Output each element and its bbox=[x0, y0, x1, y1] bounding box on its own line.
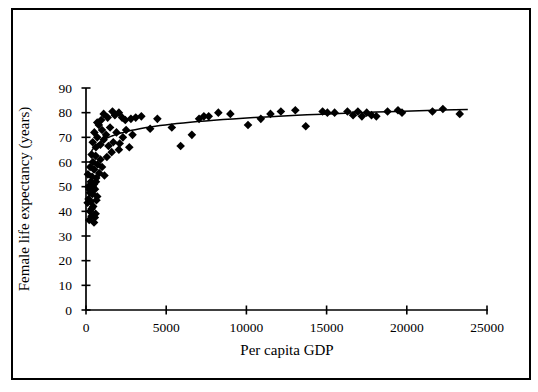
x-tick-label: 15000 bbox=[310, 320, 344, 335]
y-tick-label: 50 bbox=[59, 179, 73, 194]
y-tick-label: 70 bbox=[59, 130, 73, 145]
data-point bbox=[291, 106, 300, 115]
y-axis-title: Female life expectancy (years) bbox=[16, 107, 33, 291]
data-point bbox=[455, 110, 464, 119]
y-tick-label: 80 bbox=[59, 105, 73, 120]
data-point bbox=[439, 105, 448, 114]
x-axis-title: Per capita GDP bbox=[240, 342, 333, 358]
data-point bbox=[383, 107, 392, 116]
data-point bbox=[204, 112, 213, 121]
x-tick-label: 0 bbox=[83, 320, 90, 335]
data-point bbox=[214, 108, 223, 117]
y-tick-label: 10 bbox=[59, 278, 73, 293]
trend-line bbox=[91, 109, 468, 152]
x-tick-labels-group: 0500010000150002000025000 bbox=[83, 320, 505, 335]
y-tick-label: 90 bbox=[59, 81, 73, 96]
data-point bbox=[115, 145, 124, 154]
x-tick-label: 20000 bbox=[390, 320, 424, 335]
y-tick-label: 40 bbox=[59, 204, 73, 219]
y-tick-label: 60 bbox=[59, 155, 73, 170]
y-tick-label: 20 bbox=[59, 253, 73, 268]
trend-group bbox=[91, 109, 468, 152]
data-point bbox=[277, 107, 286, 116]
y-tick-labels-group: 0102030405060708090 bbox=[59, 81, 73, 318]
y-tick-label: 30 bbox=[59, 229, 73, 244]
data-point bbox=[128, 131, 137, 140]
x-tick-label: 5000 bbox=[153, 320, 180, 335]
data-point bbox=[301, 122, 310, 131]
data-point bbox=[188, 131, 197, 140]
x-tick-label: 10000 bbox=[230, 320, 264, 335]
data-point bbox=[137, 112, 146, 121]
data-point bbox=[257, 115, 266, 124]
plot-svg: 0500010000150002000025000 01020304050607… bbox=[0, 0, 538, 392]
data-point bbox=[106, 123, 115, 132]
x-tick-label: 25000 bbox=[470, 320, 504, 335]
y-tick-label: 0 bbox=[65, 303, 72, 318]
data-point bbox=[125, 143, 134, 152]
data-point bbox=[153, 115, 162, 124]
data-point bbox=[146, 124, 155, 133]
data-point bbox=[428, 107, 437, 116]
data-point bbox=[244, 121, 253, 130]
data-point bbox=[176, 142, 185, 151]
points-group bbox=[83, 105, 464, 227]
data-point bbox=[330, 108, 339, 117]
data-point bbox=[226, 110, 235, 119]
chart-figure: 0500010000150002000025000 01020304050607… bbox=[0, 0, 538, 392]
